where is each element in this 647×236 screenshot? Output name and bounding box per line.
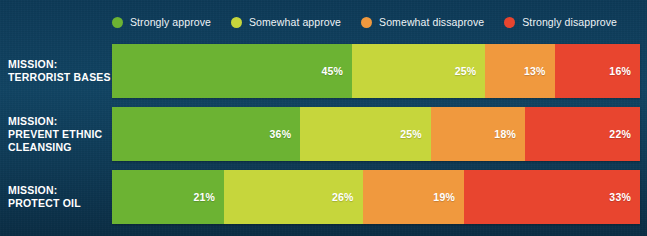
- legend-item[interactable]: Strongly disapprove: [504, 17, 617, 28]
- row-label-line: CLEANSING: [8, 141, 112, 154]
- legend-item-label: Strongly disapprove: [522, 17, 617, 28]
- chart-row: MISSION:PREVENT ETHNICCLEANSING36%25%18%…: [0, 107, 647, 161]
- legend-item[interactable]: Somewhat dissaprove: [361, 17, 484, 28]
- row-label: MISSION:PREVENT ETHNICCLEANSING: [0, 115, 112, 154]
- row-label-line: MISSION:: [8, 184, 112, 197]
- bar-segment-value: 45%: [321, 65, 343, 77]
- bar-segment-value: 26%: [332, 191, 354, 203]
- bar-segment-value: 16%: [609, 65, 631, 77]
- row-label-line: PREVENT ETHNIC: [8, 128, 112, 141]
- chart-legend: Strongly approveSomewhat approveSomewhat…: [112, 13, 639, 31]
- stacked-bar: 21%26%19%33%: [112, 170, 640, 224]
- bar-segment-value: 25%: [455, 65, 477, 77]
- bar-segment-value: 19%: [433, 191, 455, 203]
- stacked-bar-chart: Strongly approveSomewhat approveSomewhat…: [0, 0, 647, 236]
- legend-item[interactable]: Strongly approve: [112, 17, 211, 28]
- bar-segment[interactable]: 19%: [363, 170, 464, 224]
- bar-segment[interactable]: 25%: [300, 107, 431, 161]
- bar-segment-value: 33%: [609, 191, 631, 203]
- bar-segment-value: 13%: [524, 65, 546, 77]
- bar-segment[interactable]: 21%: [112, 170, 224, 224]
- row-label-line: MISSION:: [8, 58, 112, 71]
- row-label: MISSION:TERRORIST BASES: [0, 58, 112, 84]
- row-label-line: MISSION:: [8, 115, 112, 128]
- bar-segment[interactable]: 36%: [112, 107, 300, 161]
- bar-segment[interactable]: 33%: [464, 170, 640, 224]
- bar-segment[interactable]: 18%: [431, 107, 525, 161]
- chart-row: MISSION:TERRORIST BASES45%25%13%16%: [0, 44, 647, 98]
- bar-segment[interactable]: 25%: [352, 44, 485, 98]
- legend-item-label: Somewhat approve: [249, 17, 341, 28]
- bar-segment[interactable]: 26%: [224, 170, 363, 224]
- legend-item-label: Somewhat dissaprove: [379, 17, 484, 28]
- bar-segment[interactable]: 45%: [112, 44, 352, 98]
- chart-rows: MISSION:TERRORIST BASES45%25%13%16%MISSI…: [0, 44, 647, 233]
- bar-segment-value: 36%: [270, 128, 292, 140]
- circle-swatch-icon: [112, 17, 123, 28]
- legend-item-label: Strongly approve: [130, 17, 211, 28]
- legend-item[interactable]: Somewhat approve: [231, 17, 341, 28]
- stacked-bar: 45%25%13%16%: [112, 44, 640, 98]
- bar-segment-value: 18%: [494, 128, 516, 140]
- stacked-bar: 36%25%18%22%: [112, 107, 640, 161]
- bar-segment[interactable]: 16%: [555, 44, 640, 98]
- circle-swatch-icon: [231, 17, 242, 28]
- circle-swatch-icon: [361, 17, 372, 28]
- bar-segment-value: 25%: [400, 128, 422, 140]
- circle-swatch-icon: [504, 17, 515, 28]
- bar-segment-value: 21%: [193, 191, 215, 203]
- chart-row: MISSION:PROTECT OIL21%26%19%33%: [0, 170, 647, 224]
- bar-segment-value: 22%: [609, 128, 631, 140]
- bar-segment[interactable]: 13%: [485, 44, 554, 98]
- row-label-line: TERRORIST BASES: [8, 71, 112, 84]
- row-label: MISSION:PROTECT OIL: [0, 184, 112, 210]
- row-label-line: PROTECT OIL: [8, 197, 112, 210]
- bar-segment[interactable]: 22%: [525, 107, 640, 161]
